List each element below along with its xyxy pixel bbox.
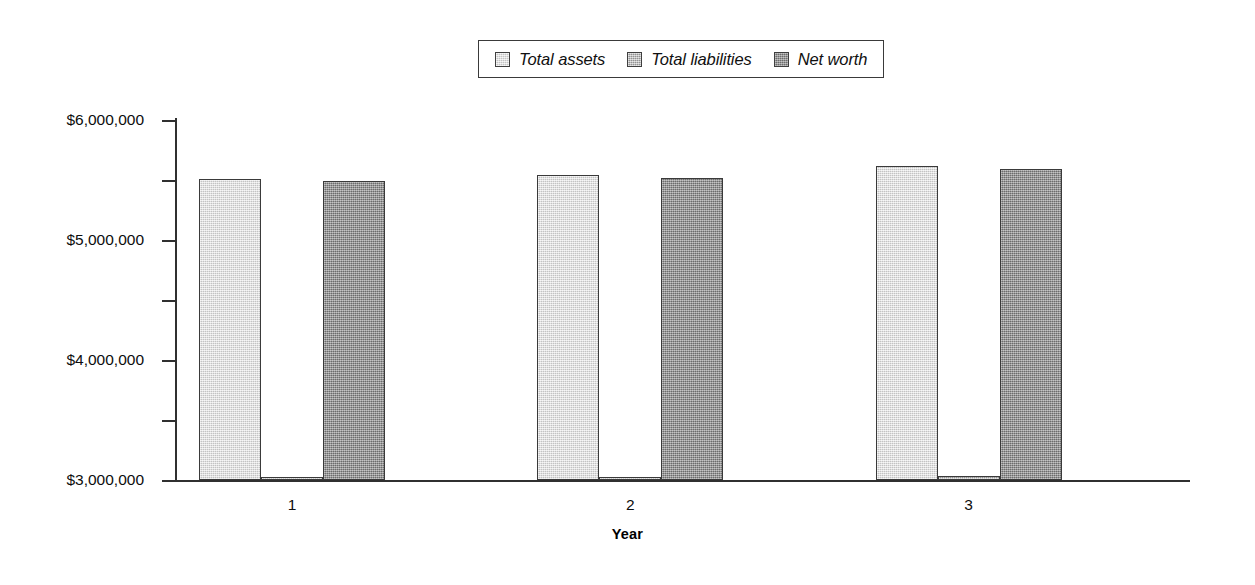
y-axis-tick-mark: $6,000,000: [162, 120, 175, 122]
legend-label-total-liabilities: Total liabilities: [651, 50, 751, 69]
legend-label-total-assets: Total assets: [519, 50, 605, 69]
legend-swatch-total-liabilities: [627, 52, 642, 67]
bar-net-worth-year-1[interactable]: [323, 181, 385, 480]
chart-page: Total assets Total liabilities Net worth…: [0, 0, 1255, 585]
y-axis-tick-mark: $4,000,000: [162, 240, 175, 242]
y-axis-tick-mark: $1,000,000: [162, 420, 175, 422]
x-axis-title: Year: [0, 526, 1255, 542]
bar-total-liabilities-year-2[interactable]: [599, 477, 661, 480]
bar-total-assets-year-1[interactable]: [199, 179, 261, 480]
x-axis-line: [175, 480, 1190, 482]
y-axis-tick-mark: $2,000,000: [162, 360, 175, 362]
x-axis-label-1: 1: [288, 496, 297, 514]
x-axis-label-3: 3: [964, 496, 973, 514]
y-axis-tick-mark: $5,000,000: [162, 180, 175, 182]
chart-legend: Total assets Total liabilities Net worth: [478, 40, 884, 78]
legend-swatch-total-assets: [495, 52, 510, 67]
legend-entry-total-assets[interactable]: Total assets: [495, 50, 605, 69]
plot-area: $0$1,000,000$2,000,000$3,000,000$4,000,0…: [175, 120, 1190, 480]
bar-total-liabilities-year-1[interactable]: [261, 477, 323, 480]
y-axis-tick-mark: $0: [162, 480, 175, 482]
bar-total-liabilities-year-3[interactable]: [938, 476, 1000, 480]
bar-total-assets-year-2[interactable]: [537, 175, 599, 480]
y-axis-tick-label: $3,000,000: [66, 471, 144, 489]
bar-net-worth-year-3[interactable]: [1000, 169, 1062, 480]
y-axis-tick-label: $5,000,000: [66, 231, 144, 249]
x-axis-label-2: 2: [626, 496, 635, 514]
legend-entry-net-worth[interactable]: Net worth: [774, 50, 868, 69]
bar-net-worth-year-2[interactable]: [661, 178, 723, 480]
legend-entry-total-liabilities[interactable]: Total liabilities: [627, 50, 751, 69]
y-axis-tick-label: $4,000,000: [66, 351, 144, 369]
legend-label-net-worth: Net worth: [798, 50, 868, 69]
legend-swatch-net-worth: [774, 52, 789, 67]
y-axis-tick-label: $6,000,000: [66, 111, 144, 129]
y-axis-tick-mark: $3,000,000: [162, 300, 175, 302]
bar-total-assets-year-3[interactable]: [876, 166, 938, 480]
